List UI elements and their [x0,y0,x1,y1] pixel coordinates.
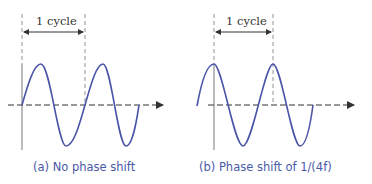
panel-b [197,14,354,150]
caption-b: (b) Phase shift of 1/(4f) [199,160,332,174]
caption-a: (a) No phase shift [33,160,135,174]
panel-a [8,14,163,150]
cycle-label-a: 1 cycle [36,14,77,28]
cycle-label-b: 1 cycle [226,14,267,28]
